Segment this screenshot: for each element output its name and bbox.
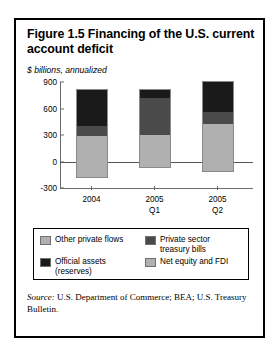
y-axis-tick-mark <box>60 82 64 83</box>
bar-segment-other_private_flows <box>77 161 107 176</box>
chart-plot-area: -300030060090020042005 Q12005 Q2 <box>27 78 255 218</box>
x-axis-line <box>60 188 253 189</box>
bar-segment-net_equity_and_fdi <box>140 135 170 162</box>
y-axis-tick-mark <box>60 135 64 136</box>
legend-label: Official assets (reserves) <box>55 257 106 277</box>
legend-label: Net equity and FDI <box>160 257 228 267</box>
bar-segment-private_sector_treasury_bills <box>140 98 170 134</box>
bar-segment-official_assets <box>77 90 107 125</box>
bar-segment-other_private_flows <box>203 161 233 171</box>
legend-swatch-icon <box>41 259 50 266</box>
figure-frame: Figure 1.5 Financing of the U.S. current… <box>14 18 265 338</box>
bar-segment-net_equity_and_fdi <box>77 136 107 162</box>
y-axis-tick-label: 900 <box>27 78 57 87</box>
y-axis-tick-label: 600 <box>27 104 57 113</box>
source-body: U.S. Department of Commerce; BEA; U.S. T… <box>27 292 246 314</box>
y-axis-tick-mark <box>60 108 64 109</box>
x-axis-label-2: 2005 Q1 <box>125 195 185 216</box>
chart-legend: Other private flowsPrivate sector treasu… <box>33 228 249 280</box>
axis-units-label: $ billions, annualized <box>27 65 107 75</box>
legend-label: Other private flows <box>55 235 123 245</box>
source-label: Source: <box>27 292 55 302</box>
bar-segment-official_assets <box>203 82 233 112</box>
legend-swatch-icon <box>146 237 155 244</box>
legend-item-4[interactable]: Net equity and FDI <box>146 257 228 267</box>
source-note: Source: U.S. Department of Commerce; BEA… <box>27 292 249 315</box>
y-axis-tick-label: -300 <box>27 184 57 193</box>
bar-1 <box>77 90 107 177</box>
legend-swatch-icon <box>146 259 155 266</box>
bar-segment-net_equity_and_fdi <box>203 124 233 162</box>
bar-3 <box>203 82 233 171</box>
bar-segment-other_private_flows <box>140 161 170 166</box>
legend-label: Private sector treasury bills <box>160 235 210 255</box>
bar-segment-private_sector_treasury_bills <box>77 126 107 136</box>
figure-title: Figure 1.5 Financing of the U.S. current… <box>27 27 255 57</box>
legend-item-2[interactable]: Private sector treasury bills <box>146 235 210 255</box>
legend-item-1[interactable]: Other private flows <box>41 235 123 245</box>
legend-item-3[interactable]: Official assets (reserves) <box>41 257 106 277</box>
bar-segment-private_sector_treasury_bills <box>203 112 233 123</box>
legend-swatch-icon <box>41 237 50 244</box>
bar-2 <box>140 90 170 167</box>
y-axis-tick-label: 300 <box>27 131 57 140</box>
x-axis-label-1: 2004 <box>62 195 122 206</box>
y-axis-tick-label: 0 <box>27 157 57 166</box>
bar-segment-official_assets <box>140 90 170 99</box>
x-axis-label-3: 2005 Q2 <box>188 195 248 216</box>
